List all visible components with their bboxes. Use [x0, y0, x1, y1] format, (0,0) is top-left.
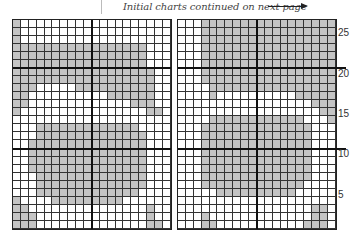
- chart-cell: [304, 165, 312, 173]
- chart-cell: [100, 116, 108, 124]
- chart-cell: [155, 189, 163, 197]
- chart-cell: [296, 92, 304, 100]
- chart-cell: [108, 197, 116, 205]
- chart-cell: [92, 20, 100, 28]
- chart-cell: [225, 205, 233, 213]
- chart-cell: [21, 173, 29, 181]
- chart-cell: [210, 197, 218, 205]
- chart-cell: [241, 205, 249, 213]
- chart-cell: [131, 221, 139, 229]
- chart-cell: [155, 92, 163, 100]
- chart-cell: [139, 197, 147, 205]
- chart-cell: [312, 181, 320, 189]
- chart-cell: [29, 44, 37, 52]
- chart-cell: [233, 84, 241, 92]
- chart-cell: [68, 20, 76, 28]
- chart-cell: [320, 173, 328, 181]
- chart-cell: [265, 181, 273, 189]
- chart-cell: [155, 52, 163, 60]
- chart-cell: [68, 221, 76, 229]
- chart-cell: [233, 36, 241, 44]
- chart-cell: [328, 221, 336, 229]
- chart-cell: [76, 213, 84, 221]
- chart-cell: [155, 44, 163, 52]
- chart-cell: [241, 100, 249, 108]
- chart-cell: [281, 116, 289, 124]
- chart-cell: [37, 108, 45, 116]
- chart-cell: [304, 157, 312, 165]
- row-label-20: 20: [338, 68, 349, 79]
- chart-cell: [92, 213, 100, 221]
- chart-cell: [76, 28, 84, 36]
- chart-cell: [328, 165, 336, 173]
- chart-cell: [76, 181, 84, 189]
- chart-cell: [13, 124, 21, 132]
- chart-cell: [116, 189, 124, 197]
- chart-cell: [116, 36, 124, 44]
- chart-cell: [45, 116, 53, 124]
- chart-cell: [116, 165, 124, 173]
- chart-cell: [186, 52, 194, 60]
- chart-cell: [225, 100, 233, 108]
- chart-cell: [123, 165, 131, 173]
- chart-cell: [100, 44, 108, 52]
- chart-cell: [108, 181, 116, 189]
- chart-cell: [92, 100, 100, 108]
- chart-cell: [139, 213, 147, 221]
- chart-cell: [131, 100, 139, 108]
- chart-cell: [273, 189, 281, 197]
- chart-cell: [210, 205, 218, 213]
- chart-cell: [233, 52, 241, 60]
- chart-cell: [312, 108, 320, 116]
- chart-cell: [13, 213, 21, 221]
- chart-cell: [194, 68, 202, 76]
- chart-cell: [123, 213, 131, 221]
- chart-cell: [13, 181, 21, 189]
- chart-cell: [131, 149, 139, 157]
- chart-cell: [123, 197, 131, 205]
- chart-cell: [225, 116, 233, 124]
- chart-cell: [68, 92, 76, 100]
- chart-cell: [194, 108, 202, 116]
- chart-cell: [233, 76, 241, 84]
- chart-cell: [273, 165, 281, 173]
- chart-cell: [100, 20, 108, 28]
- chart-cell: [241, 173, 249, 181]
- chart-cell: [163, 20, 171, 28]
- chart-cell: [147, 213, 155, 221]
- chart-cell: [178, 52, 186, 60]
- chart-cell: [155, 124, 163, 132]
- chart-cell: [13, 44, 21, 52]
- chart-cell: [288, 100, 296, 108]
- chart-cell: [76, 76, 84, 84]
- chart-cell: [108, 165, 116, 173]
- chart-cell: [45, 181, 53, 189]
- chart-cell: [68, 116, 76, 124]
- chart-cell: [45, 221, 53, 229]
- chart-cell: [131, 173, 139, 181]
- chart-cell: [100, 189, 108, 197]
- chart-cell: [296, 100, 304, 108]
- chart-cell: [92, 76, 100, 84]
- chart-cell: [265, 213, 273, 221]
- chart-cell: [217, 213, 225, 221]
- chart-cell: [60, 36, 68, 44]
- chart-cell: [92, 132, 100, 140]
- chart-cell: [13, 92, 21, 100]
- chart-cell: [296, 124, 304, 132]
- chart-cell: [29, 52, 37, 60]
- chart-cell: [147, 20, 155, 28]
- chart-cell: [21, 68, 29, 76]
- chart-cell: [147, 157, 155, 165]
- chart-cell: [273, 68, 281, 76]
- chart-cell: [68, 100, 76, 108]
- chart-cell: [68, 149, 76, 157]
- chart-cell: [21, 116, 29, 124]
- chart-cell: [186, 197, 194, 205]
- chart-cell: [52, 213, 60, 221]
- chart-cell: [257, 157, 265, 165]
- chart-cell: [241, 76, 249, 84]
- chart-cell: [37, 116, 45, 124]
- chart-cell: [60, 213, 68, 221]
- chart-cell: [131, 213, 139, 221]
